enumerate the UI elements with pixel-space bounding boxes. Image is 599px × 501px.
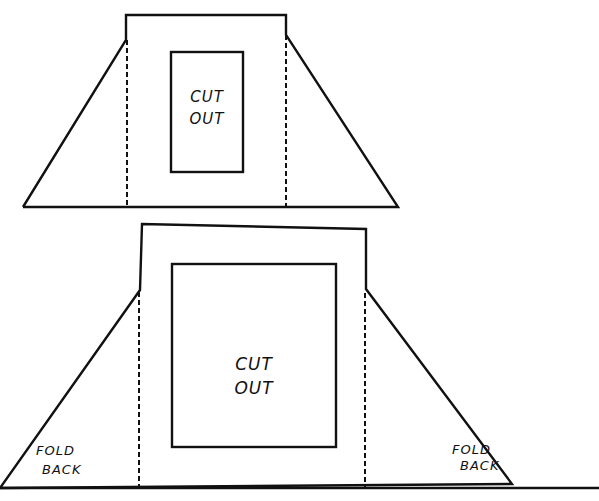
right-flap-label-line1: FOLD xyxy=(452,442,491,457)
top-template: CUT OUT xyxy=(23,15,398,207)
left-flap-label-line1: FOLD xyxy=(36,443,75,458)
left-flap-label-line2: BACK xyxy=(42,462,82,477)
diagram-canvas: CUT OUT CUT OUT FOLD BACK FOLD BACK xyxy=(0,0,599,501)
bottom-template: CUT OUT FOLD BACK FOLD BACK xyxy=(0,224,599,488)
top-cutout-label-line2: OUT xyxy=(190,110,226,128)
top-cutout-label-line1: CUT xyxy=(190,88,224,106)
bottom-cutout-label-line2: OUT xyxy=(234,378,274,398)
bottom-cutout-label-line1: CUT xyxy=(235,354,273,374)
right-flap-label-line2: BACK xyxy=(460,458,500,473)
